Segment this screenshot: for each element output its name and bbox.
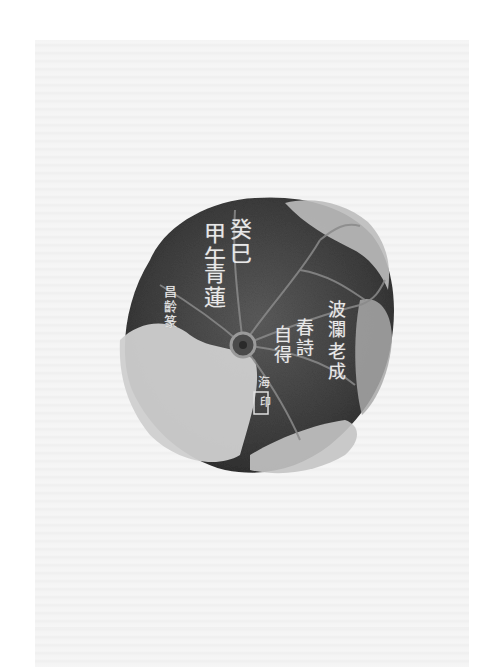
- inscription-signature: 昌齡篆: [160, 285, 179, 330]
- rock-edge-right: [355, 299, 392, 415]
- seal-signature: 海: [254, 376, 271, 390]
- seal-text: 印: [256, 396, 272, 409]
- inscription-right-col1: 波瀾: [322, 300, 348, 340]
- inscription-left-col3: 青蓮: [196, 262, 228, 310]
- inscription-right-col2: 老成: [322, 342, 348, 382]
- inscription-right-col4: 自得: [268, 325, 294, 365]
